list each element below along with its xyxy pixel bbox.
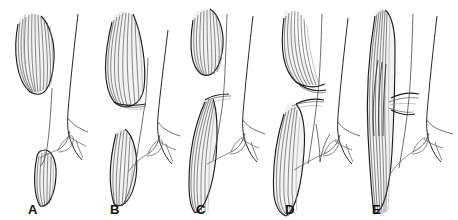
anatomical-figure: A <box>0 0 458 220</box>
panel-d-illustration <box>272 0 364 220</box>
panel-b: B <box>92 0 184 220</box>
panel-e-illustration <box>361 0 458 220</box>
upper-muscle-belly-d <box>282 10 326 93</box>
panel-e: E <box>361 0 458 220</box>
panel-a: A <box>0 0 92 220</box>
lower-muscle-belly-b <box>110 128 137 206</box>
panel-b-illustration <box>92 0 184 220</box>
upper-muscle-belly-a <box>16 13 55 95</box>
vascular-bundle-e <box>389 16 453 176</box>
panel-c-illustration <box>183 0 275 220</box>
panel-label-a: A <box>28 203 38 216</box>
upper-muscle-belly-b <box>106 11 147 109</box>
panel-label-d: D <box>285 203 295 216</box>
panel-label-b: B <box>110 203 120 216</box>
continuous-muscle-band-e <box>366 9 419 214</box>
panel-label-c: C <box>196 203 206 216</box>
panel-label-e: E <box>372 203 381 216</box>
panel-a-illustration <box>0 0 92 220</box>
panel-c: C <box>183 0 275 220</box>
nerve-trunk-e <box>399 14 413 168</box>
panel-d: D <box>272 0 364 220</box>
upper-muscle-belly-c <box>191 8 223 76</box>
lower-muscle-belly-c <box>189 94 231 213</box>
lower-muscle-belly-a <box>35 150 57 206</box>
